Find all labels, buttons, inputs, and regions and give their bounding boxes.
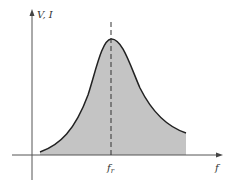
- resonance-diagram: [0, 0, 235, 187]
- x-axis-arrow-icon: [216, 153, 223, 158]
- fr-subscript: r: [111, 167, 114, 175]
- y-axis-label: V, I: [37, 10, 53, 20]
- shaded-area: [40, 39, 186, 155]
- y-axis-arrow-icon: [30, 9, 35, 16]
- resonant-frequency-label: fr: [107, 163, 114, 175]
- x-axis-label: f: [215, 163, 219, 173]
